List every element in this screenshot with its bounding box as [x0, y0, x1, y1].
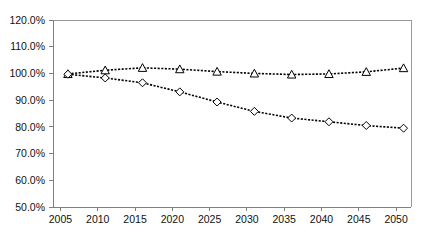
x-tick-label: 2010 — [86, 213, 110, 225]
y-axis: 120.0%110.0%100.0%90.0%80.0%70.0%60.0%50… — [9, 14, 53, 213]
x-tick-label: 2035 — [273, 213, 297, 225]
line-chart: 120.0%110.0%100.0%90.0%80.0%70.0%60.0%50… — [0, 0, 422, 251]
y-tick-label: 120.0% — [9, 14, 45, 26]
y-tick-label: 70.0% — [15, 147, 45, 159]
x-axis: 2005201020152020202520302035204020452050 — [49, 207, 411, 225]
y-tick-label: 50.0% — [15, 201, 45, 213]
x-tick-label: 2005 — [49, 213, 73, 225]
y-tick-label: 90.0% — [15, 94, 45, 106]
y-tick-label: 100.0% — [9, 67, 45, 79]
y-tick-label: 80.0% — [15, 121, 45, 133]
x-tick-label: 2020 — [161, 213, 185, 225]
y-tick-label: 60.0% — [15, 174, 45, 186]
x-tick-label: 2050 — [384, 213, 408, 225]
y-tick-label: 110.0% — [10, 40, 45, 52]
x-tick-label: 2045 — [347, 213, 371, 225]
x-tick-label: 2015 — [123, 213, 147, 225]
chart-container: 120.0%110.0%100.0%90.0%80.0%70.0%60.0%50… — [0, 0, 422, 251]
x-tick-label: 2030 — [235, 213, 259, 225]
x-tick-label: 2040 — [310, 213, 334, 225]
plot-background — [53, 20, 411, 207]
x-tick-label: 2025 — [198, 213, 222, 225]
